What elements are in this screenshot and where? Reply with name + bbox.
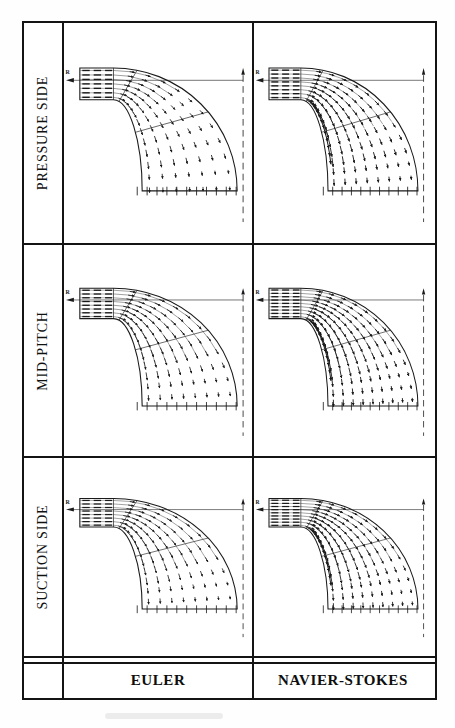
radial-axis-label: R — [255, 499, 260, 505]
duct-walls — [269, 288, 418, 406]
duct-walls — [269, 68, 418, 191]
radial-axis-arrowhead — [256, 78, 263, 83]
radial-axis-arrowhead — [66, 508, 74, 512]
flow-panel-mid-pitch-euler: R — [64, 245, 252, 456]
duct-walls — [80, 288, 237, 406]
radial-axis-label: R — [65, 499, 70, 505]
streamline — [301, 516, 355, 563]
flow-panel-svg: R — [254, 23, 432, 243]
column-label-navier-stokes: NAVIER-STOKES — [254, 664, 432, 697]
row-label-mid-pitch: MID-PITCH — [35, 311, 51, 391]
vector-field — [80, 70, 236, 195]
row-label-cell-pressure-side: PRESSURE SIDE — [24, 23, 62, 243]
machine-axis-arrowhead — [422, 68, 425, 75]
flow-panel-pressure-navier-stokes: R — [254, 23, 432, 243]
flow-panel-suction-navier-stokes: R — [254, 458, 432, 656]
comparison-grid: PRESSURE SIDE MID-PITCH SUCTION SIDE R R… — [22, 21, 437, 700]
flow-panel-svg: R — [64, 458, 252, 656]
duct-walls — [269, 499, 418, 610]
flow-panel-svg: R — [254, 458, 432, 656]
flow-panel-suction-euler: R — [64, 458, 252, 656]
streamline — [113, 511, 185, 563]
footer-corner-cell — [24, 664, 62, 697]
machine-axis-arrowhead — [241, 288, 245, 294]
grid-line-footer-top-outer — [24, 656, 435, 658]
vector-field — [269, 70, 417, 195]
row-label-cell-suction-side: SUCTION SIDE — [24, 458, 62, 656]
radial-axis-arrowhead — [66, 298, 74, 302]
flow-panel-svg: R — [254, 245, 432, 456]
faint-caption-remnant — [105, 713, 223, 719]
flow-panel-pressure-euler: R — [64, 23, 252, 243]
streamline — [301, 74, 383, 124]
streamline — [301, 86, 356, 131]
vector-field — [269, 290, 417, 410]
duct-walls — [80, 499, 237, 610]
vector-field — [269, 500, 417, 613]
flow-panel-svg: R — [64, 245, 252, 456]
vector-field — [80, 500, 236, 613]
radial-axis-arrowhead — [256, 298, 263, 302]
flow-panel-mid-pitch-navier-stokes: R — [254, 245, 432, 456]
machine-axis-arrowhead — [422, 288, 425, 294]
column-label-euler: EULER — [64, 664, 252, 697]
machine-axis-arrowhead — [241, 499, 245, 505]
flow-panel-svg: R — [64, 23, 252, 243]
radial-axis-label: R — [65, 69, 70, 75]
radial-axis-label: R — [255, 289, 260, 295]
streamline — [113, 302, 185, 357]
row-label-pressure-side: PRESSURE SIDE — [35, 76, 51, 190]
radial-axis-label: R — [255, 69, 260, 75]
radial-axis-label: R — [65, 289, 70, 295]
machine-axis-arrowhead — [422, 499, 425, 505]
radial-axis-arrowhead — [256, 508, 263, 512]
radial-axis-arrowhead — [66, 78, 74, 83]
row-label-cell-mid-pitch: MID-PITCH — [24, 245, 62, 456]
scanned-figure-page: PRESSURE SIDE MID-PITCH SUCTION SIDE R R… — [0, 0, 455, 728]
vector-field — [80, 290, 236, 410]
streamline — [113, 88, 148, 105]
machine-axis-arrowhead — [241, 68, 245, 75]
row-label-suction-side: SUCTION SIDE — [35, 505, 51, 610]
